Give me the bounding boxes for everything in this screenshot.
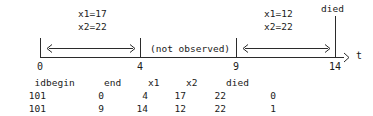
column-header-died: died bbox=[226, 76, 276, 89]
tick-mark-0 bbox=[40, 38, 41, 58]
cell-x1: 17 bbox=[148, 89, 186, 102]
cell-id: 101 bbox=[12, 102, 46, 115]
tick-mark-9 bbox=[236, 38, 237, 58]
tick-mark-4 bbox=[140, 38, 141, 58]
tick-label-14: 14 bbox=[329, 61, 341, 73]
time-axis-arrowhead-icon bbox=[342, 52, 353, 63]
cell-died: 1 bbox=[226, 102, 276, 115]
tick-label-9: 9 bbox=[233, 61, 239, 73]
first-interval-arrow bbox=[44, 43, 138, 54]
table-row: 101 0 4 17 22 0 bbox=[12, 89, 276, 102]
cell-end: 14 bbox=[104, 102, 148, 115]
cell-end: 4 bbox=[104, 89, 148, 102]
first-interval-x1-label: x1=17 bbox=[78, 8, 107, 20]
cell-id: 101 bbox=[12, 89, 46, 102]
column-header-end: end bbox=[104, 76, 148, 89]
cell-x2: 22 bbox=[186, 89, 226, 102]
not-observed-label: (not observed) bbox=[150, 43, 230, 55]
data-table: id begin end x1 x2 died 101 0 4 17 22 0 … bbox=[12, 76, 276, 115]
cell-begin: 0 bbox=[46, 89, 104, 102]
table-header-row: id begin end x1 x2 died bbox=[12, 76, 276, 89]
died-label: died bbox=[321, 3, 344, 15]
time-axis-label: t bbox=[356, 50, 362, 61]
cell-x2: 22 bbox=[186, 102, 226, 115]
second-interval-x2-label: x2=22 bbox=[264, 21, 293, 33]
survival-timeline-figure: x1=17 x2=22 x1=12 x2=22 died (not observ… bbox=[0, 0, 373, 116]
column-header-begin: begin bbox=[46, 76, 104, 89]
second-interval-x1-label: x1=12 bbox=[264, 8, 293, 20]
cell-begin: 9 bbox=[46, 102, 104, 115]
tick-label-4: 4 bbox=[137, 61, 143, 73]
column-header-x1: x1 bbox=[148, 76, 186, 89]
cell-died: 0 bbox=[226, 89, 276, 102]
table-row: 101 9 14 12 22 1 bbox=[12, 102, 276, 115]
tick-label-0: 0 bbox=[37, 61, 43, 73]
cell-x1: 12 bbox=[148, 102, 186, 115]
time-axis-line bbox=[40, 57, 344, 58]
first-interval-x2-label: x2=22 bbox=[78, 21, 107, 33]
tick-mark-14-death bbox=[335, 16, 336, 58]
column-header-x2: x2 bbox=[186, 76, 226, 89]
column-header-id: id bbox=[12, 76, 46, 89]
second-interval-arrow bbox=[240, 43, 333, 54]
